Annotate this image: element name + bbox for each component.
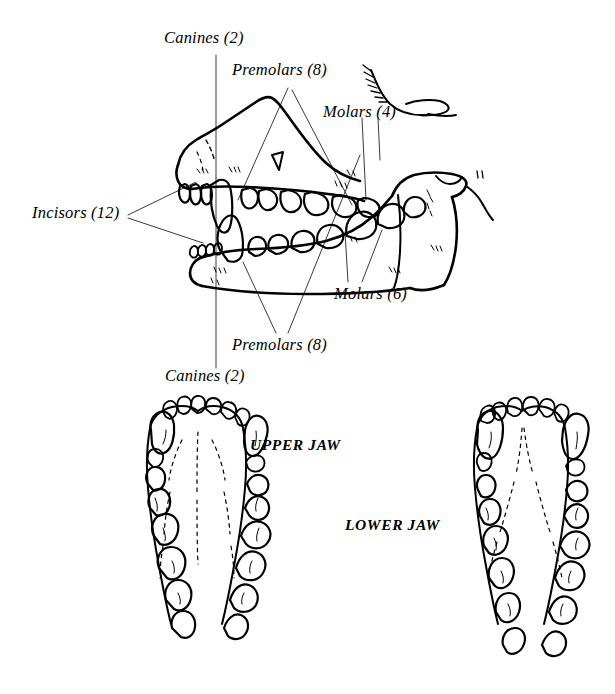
leader-premolars-lower-a bbox=[243, 262, 276, 333]
lower-arch-right-row bbox=[542, 459, 589, 656]
upper-arch-incisors bbox=[163, 396, 250, 426]
label-molars-lower: Molars (6) bbox=[334, 286, 407, 303]
leader-incisors-lower bbox=[128, 218, 203, 243]
mandible-outline bbox=[190, 171, 493, 294]
leader-molars-upper-b bbox=[378, 118, 380, 160]
upper-palate-sutures bbox=[160, 432, 234, 578]
leader-premolars-lower-b bbox=[288, 155, 360, 333]
lower-arch-incisors bbox=[480, 397, 568, 423]
leader-molars-lower-a bbox=[345, 232, 348, 282]
label-lower-jaw: LOWER JAW bbox=[345, 517, 440, 533]
upper-molar-marks bbox=[335, 181, 337, 186]
lateral-skull-view bbox=[177, 65, 494, 294]
upper-premolars bbox=[241, 188, 328, 215]
lower-jaw-occlusal-view bbox=[474, 397, 589, 656]
upper-arch-left-row bbox=[146, 449, 195, 638]
label-upper-jaw: UPPER JAW bbox=[250, 437, 341, 453]
upper-jaw-occlusal-view bbox=[146, 396, 270, 639]
label-canines-bottom: Canines (2) bbox=[165, 368, 245, 385]
label-canines-top: Canines (2) bbox=[164, 30, 244, 47]
label-molars-upper: Molars (4) bbox=[323, 104, 396, 121]
leader-molars-upper-a bbox=[362, 118, 366, 200]
label-incisors: Incisors (12) bbox=[32, 205, 119, 222]
label-premolars-bottom: Premolars (8) bbox=[232, 337, 327, 354]
label-premolars-top: Premolars (8) bbox=[232, 62, 327, 79]
dentition-figure: Canines (2) Premolars (8) Molars (4) Inc… bbox=[0, 0, 615, 694]
